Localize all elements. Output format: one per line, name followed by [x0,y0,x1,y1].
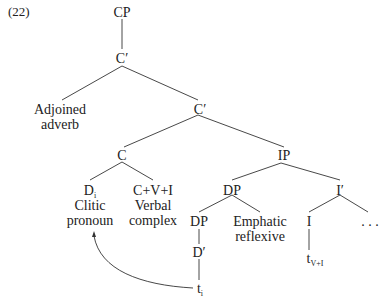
example-number: (22) [8,4,30,20]
node-verbal-line1: Verbal [135,198,172,213]
node-trace-vi: tV+I [307,251,324,271]
node-c-bar-top: C′ [116,51,128,66]
node-c-bar-mid: C′ [194,102,206,117]
node-dp-inner: DP [190,214,208,229]
node-emphatic-line2: reflexive [235,229,285,244]
node-trace-i: ti [197,281,203,299]
node-i-bar: I′ [336,183,344,198]
node-adjoined-adverb-line1: Adjoined [34,102,86,117]
node-verbal-line2: complex [129,213,177,228]
trace-index-vi: V+I [310,259,323,268]
node-cp: CP [113,5,130,20]
node-clitic-line1: Clitic [74,198,105,213]
node-i: I [307,214,312,229]
node-ellipsis: . . . [361,214,379,229]
d-label: D [84,183,94,198]
node-d-bar: D′ [192,245,205,260]
node-ip: IP [278,148,290,163]
node-c: C [117,148,126,163]
node-emphatic-line1: Emphatic [233,214,287,229]
trace-index-i: i [201,289,203,298]
node-adjoined-adverb-line2: adverb [41,117,79,132]
node-clitic-line2: pronoun [67,213,114,228]
node-cvi: C+V+I [133,183,173,198]
node-dp-ip: DP [223,183,241,198]
